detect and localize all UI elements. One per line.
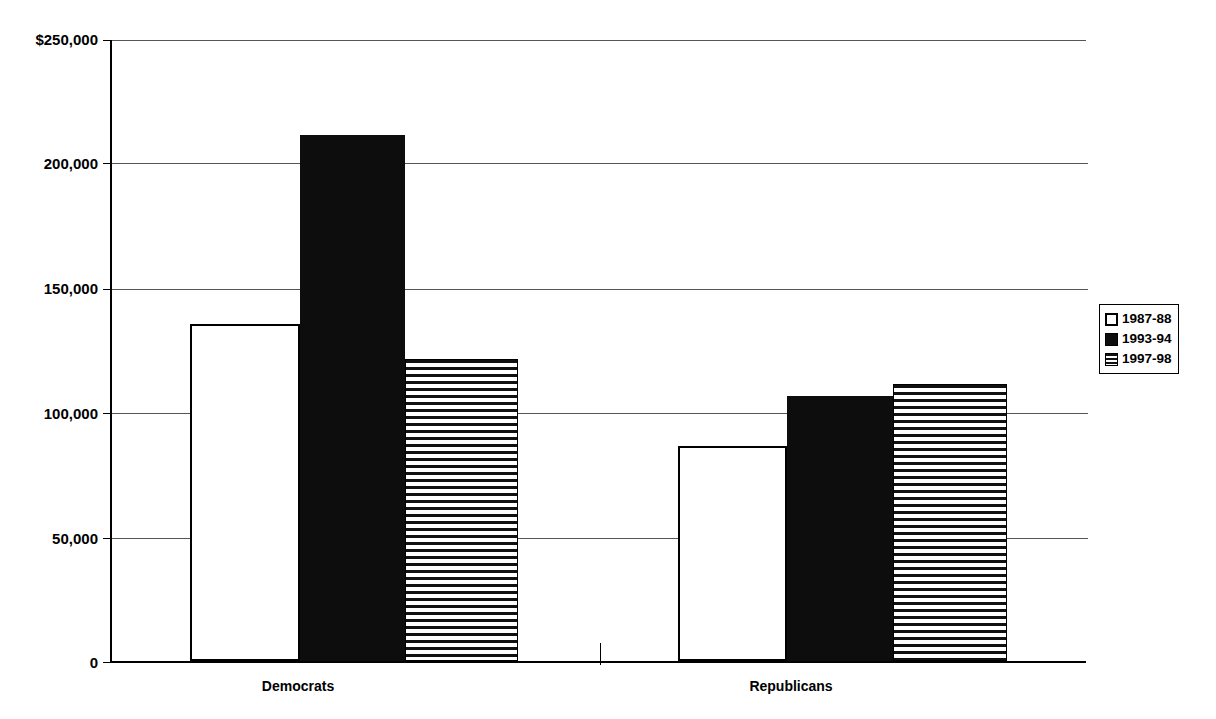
y-tick-0 xyxy=(103,662,111,663)
x-axis-label-democrats: Democrats xyxy=(198,678,398,694)
legend-swatch-solid-icon xyxy=(1105,333,1118,346)
bar-democrats-1993-94 xyxy=(300,135,405,661)
legend-swatch-open-icon xyxy=(1105,313,1118,326)
legend-swatch-hstripe-icon xyxy=(1105,353,1118,366)
y-axis-label-50000: 50,000 xyxy=(52,531,98,546)
legend-item-1997-98: 1997-98 xyxy=(1105,349,1172,369)
gridline-150000 xyxy=(112,289,1088,290)
bar-republicans-1997-98 xyxy=(893,384,1007,661)
y-tick-100000 xyxy=(103,413,111,414)
y-tick-250000 xyxy=(103,40,111,41)
legend-item-1987-88: 1987-88 xyxy=(1105,309,1172,329)
x-axis-label-republicans: Republicans xyxy=(686,678,896,694)
y-axis-label-100000: 100,000 xyxy=(44,406,98,421)
y-axis-label-150000: 150,000 xyxy=(44,281,98,296)
y-axis-label-250000: $250,000 xyxy=(35,32,98,47)
y-tick-150000 xyxy=(103,289,111,290)
legend-label-1993-94: 1993-94 xyxy=(1122,332,1172,346)
y-axis-label-200000: 200,000 xyxy=(44,156,98,171)
bar-chart: $250,000 200,000 150,000 100,000 50,000 … xyxy=(0,0,1216,719)
legend-item-1993-94: 1993-94 xyxy=(1105,329,1172,349)
gridline-200000 xyxy=(112,163,1088,164)
category-tick-1 xyxy=(600,643,601,665)
legend: 1987-88 1993-94 1997-98 xyxy=(1099,304,1179,374)
y-tick-200000 xyxy=(103,163,111,164)
bar-democrats-1987-88 xyxy=(190,324,300,661)
legend-label-1987-88: 1987-88 xyxy=(1122,312,1172,326)
y-tick-50000 xyxy=(103,538,111,539)
bar-republicans-1993-94 xyxy=(787,396,893,661)
legend-label-1997-98: 1997-98 xyxy=(1122,352,1172,366)
bar-democrats-1997-98 xyxy=(405,359,518,661)
y-axis-label-0: 0 xyxy=(90,655,98,670)
plot-area xyxy=(110,40,1086,663)
bar-republicans-1987-88 xyxy=(678,446,787,661)
